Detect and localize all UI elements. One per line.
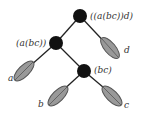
leaf-a [11,58,37,84]
node-root [73,9,87,23]
label-b: b [38,99,44,109]
tree-diagram: ((a(bc))d) (a(bc)) (bc) a b c d [0,0,141,117]
label-d: d [124,45,130,55]
leaf-c [99,83,125,109]
label-bc: (bc) [94,65,112,75]
node-a-bc [49,36,63,50]
label-c: c [124,100,129,110]
label-a-bc: (a(bc)) [16,38,47,48]
leaf-b [45,83,71,109]
leaf-d [97,35,122,62]
label-a: a [8,73,13,83]
edges [30,16,110,93]
label-root: ((a(bc))d) [90,11,133,21]
node-bc [77,64,91,78]
